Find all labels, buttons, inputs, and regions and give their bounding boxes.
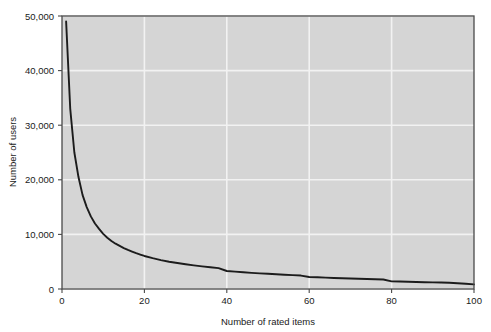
y-tick-label: 40,000: [25, 65, 54, 76]
x-axis-tick-labels: 020406080100: [59, 295, 482, 306]
x-tick-label: 60: [304, 295, 315, 306]
y-axis-tick-labels: 010,00020,00030,00040,00050,000: [25, 11, 54, 295]
y-tick-label: 0: [49, 284, 54, 295]
x-tick-label: 20: [139, 295, 150, 306]
x-tick-label: 100: [466, 295, 482, 306]
y-axis-title: Number of users: [7, 117, 18, 187]
x-tick-label: 40: [222, 295, 233, 306]
x-tick-label: 0: [59, 295, 64, 306]
chart-canvas: 020406080100 010,00020,00030,00040,00050…: [0, 0, 491, 332]
y-tick-label: 10,000: [25, 229, 54, 240]
y-tick-label: 20,000: [25, 174, 54, 185]
x-axis-title: Number of rated items: [221, 316, 315, 327]
y-tick-label: 30,000: [25, 120, 54, 131]
x-tick-label: 80: [386, 295, 397, 306]
chart-figure: 020406080100 010,00020,00030,00040,00050…: [0, 0, 491, 332]
y-tick-label: 50,000: [25, 11, 54, 22]
